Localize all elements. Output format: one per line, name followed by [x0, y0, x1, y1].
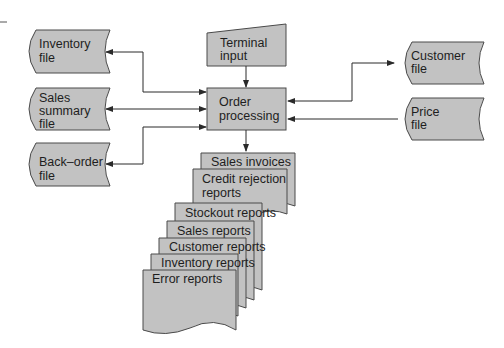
order-processing-label-2: processing	[219, 109, 279, 123]
report-credit-rejection-label-2: reports	[202, 186, 241, 200]
customer-file-label-2: file	[411, 62, 427, 76]
sales-summary-file-label-1: Sales	[39, 91, 70, 105]
terminal-input-label-2: input	[220, 49, 248, 63]
report-stack: Sales invoices Credit rejectionreports S…	[143, 153, 295, 334]
report-inventory-label: Inventory reports	[161, 256, 255, 270]
back-order-file-label-1: Back–order	[39, 155, 103, 169]
order-processing-diagram: Inventoryfile Salessummaryfile Back–orde…	[0, 0, 504, 348]
inventory-file-label-1: Inventory	[39, 37, 91, 51]
back-order-file-label-2: file	[39, 169, 55, 183]
terminal-input-label-1: Terminal	[220, 36, 267, 50]
sales-summary-file: Salessummaryfile	[29, 88, 110, 131]
inventory-file-label-2: file	[39, 51, 55, 65]
report-credit-rejection-label-1: Credit rejection	[202, 172, 286, 186]
back-order-file: Back–orderfile	[29, 143, 110, 186]
arrow-process-to-inventory	[106, 52, 143, 92]
price-file: Pricefile	[405, 98, 484, 140]
terminal-input: Terminalinput	[207, 24, 286, 66]
price-file-label-1: Price	[411, 105, 440, 119]
report-error-label: Error reports	[152, 272, 222, 286]
order-processing-process: Orderprocessing	[207, 88, 286, 130]
report-sales-label: Sales reports	[177, 224, 251, 238]
customer-file: Customerfile	[405, 42, 484, 84]
report-error: Error reports	[143, 270, 236, 334]
customer-file-label-1: Customer	[411, 49, 465, 63]
report-stockout-label: Stockout reports	[185, 206, 276, 220]
inventory-file: Inventoryfile	[29, 30, 110, 73]
order-processing-label-1: Order	[219, 95, 251, 109]
price-file-label-2: file	[411, 118, 427, 132]
sales-summary-file-label-2: summary	[39, 104, 91, 118]
arrow-process-to-back-order	[106, 127, 143, 164]
sales-summary-file-label-3: file	[39, 117, 55, 131]
report-sales-invoices-label: Sales invoices	[211, 155, 291, 169]
arrow-process-to-customer	[352, 63, 394, 101]
report-customer-label: Customer reports	[169, 240, 266, 254]
